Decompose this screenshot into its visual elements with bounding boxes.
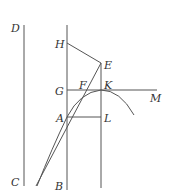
label-E: E: [103, 59, 112, 72]
label-H: H: [54, 38, 65, 51]
label-G: G: [55, 85, 64, 98]
label-K: K: [103, 79, 113, 92]
geometry-diagram: D H E G F K M A L C B: [0, 0, 170, 195]
label-M: M: [149, 92, 162, 105]
line-EA-tangent: [36, 63, 101, 186]
label-A: A: [55, 112, 64, 125]
curve: [37, 90, 134, 186]
label-L: L: [103, 112, 111, 125]
line-HE: [67, 43, 101, 63]
label-D: D: [10, 22, 20, 35]
label-C: C: [11, 176, 20, 189]
label-B: B: [54, 180, 63, 193]
label-F: F: [78, 79, 87, 92]
